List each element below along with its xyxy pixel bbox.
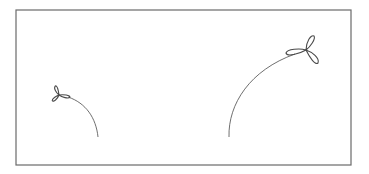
trefoil-petal: [306, 36, 314, 50]
trefoil-petal: [286, 49, 306, 55]
diagram-frame: [16, 10, 351, 165]
trajectory-diagram: [0, 0, 369, 174]
trajectory-arc: [229, 54, 295, 137]
trajectories: [50, 36, 318, 137]
trajectory-arc: [68, 97, 98, 137]
trefoil-petal: [53, 86, 62, 95]
trefoil-petal: [59, 92, 70, 99]
right-trajectory: [229, 36, 318, 137]
trefoil-loop-icon: [50, 86, 72, 106]
trefoil-petal: [306, 50, 318, 64]
trefoil-loop-icon: [286, 36, 318, 64]
left-trajectory: [50, 86, 98, 137]
